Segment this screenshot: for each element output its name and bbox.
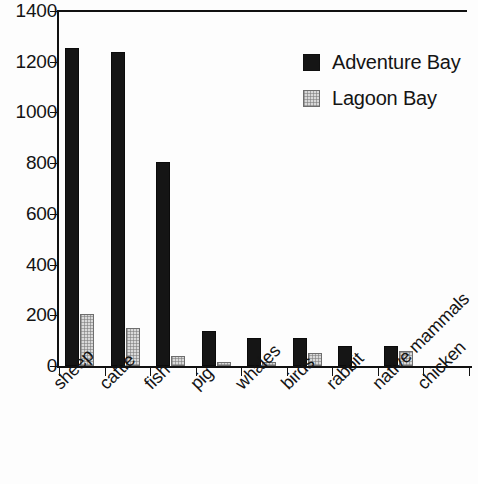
bar-sheep-adventure-bay xyxy=(65,48,79,366)
legend-item-adventure-bay: Adventure Bay xyxy=(303,47,473,77)
y-axis-tick-label: 1400 xyxy=(9,1,57,20)
legend-swatch-gray-icon xyxy=(303,90,320,107)
x-axis-tick xyxy=(469,367,470,376)
y-axis-tick-label: 200 xyxy=(9,305,57,324)
legend-swatch-black-icon xyxy=(303,54,320,71)
y-axis-tick-label: 1200 xyxy=(9,52,57,71)
legend-label-lagoon-bay: Lagoon Bay xyxy=(332,88,437,108)
y-axis-tick-label: 1000 xyxy=(9,102,57,121)
bar-group xyxy=(196,12,242,366)
bar-fish-lagoon-bay xyxy=(171,356,185,366)
y-axis: 0200400600800100012001400 xyxy=(0,0,57,380)
bar-cattle-adventure-bay xyxy=(111,52,125,366)
bar-group xyxy=(241,12,287,366)
bar-chart: 0200400600800100012001400 sheepcattlefis… xyxy=(0,0,478,484)
y-axis-tick-label: 0 xyxy=(9,356,57,375)
legend-item-lagoon-bay: Lagoon Bay xyxy=(303,83,473,113)
bar-group xyxy=(59,12,105,366)
bar-group xyxy=(150,12,196,366)
chart-legend: Adventure Bay Lagoon Bay xyxy=(303,47,473,119)
y-axis-tick-label: 400 xyxy=(9,255,57,274)
legend-label-adventure-bay: Adventure Bay xyxy=(332,52,461,72)
bar-group xyxy=(105,12,151,366)
bar-pig-lagoon-bay xyxy=(217,362,231,366)
bar-pig-adventure-bay xyxy=(202,331,216,367)
y-axis-tick-label: 600 xyxy=(9,204,57,223)
bar-fish-adventure-bay xyxy=(156,162,170,366)
y-axis-tick-label: 800 xyxy=(9,153,57,172)
